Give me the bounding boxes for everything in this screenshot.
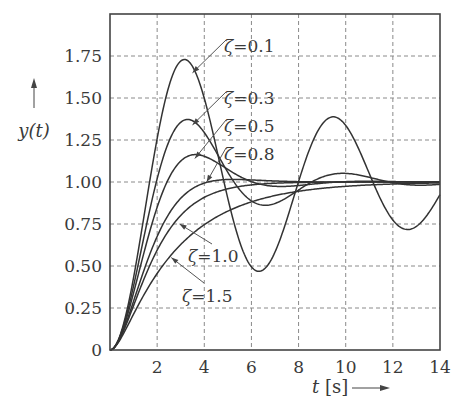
- step-response-chart: 246810121400.250.500.751.001.251.501.75 …: [0, 0, 460, 408]
- x-axis-arrow-head-icon: [380, 385, 390, 391]
- annotation-arrowhead-icon: [180, 224, 187, 230]
- x-tick-label: 12: [382, 357, 404, 377]
- y-tick-label: 1.25: [64, 130, 102, 150]
- y-tick-label: 1.00: [64, 172, 102, 192]
- y-tick-label: 1.75: [64, 46, 102, 66]
- curve-zeta-0-1: [110, 59, 440, 350]
- annotation-arrowhead-icon: [171, 258, 178, 264]
- annotation-label: ζ=0.1: [224, 36, 275, 56]
- x-axis-label-group: t [s]: [312, 376, 390, 397]
- x-tick-label: 2: [152, 357, 163, 377]
- annotation-label: ζ=0.3: [224, 88, 275, 108]
- y-axis-arrow-head-icon: [31, 78, 37, 88]
- curves: [110, 59, 440, 350]
- curve-zeta-0-3: [110, 119, 440, 350]
- annotation-label: ζ=0.8: [224, 144, 275, 164]
- x-tick-label: 8: [293, 357, 304, 377]
- y-tick-label: 0: [91, 340, 102, 360]
- y-axis-label-group: y(t): [17, 78, 49, 141]
- x-axis-label-unit: [s]: [325, 376, 348, 397]
- x-tick-label: 4: [199, 357, 210, 377]
- y-tick-label: 0.75: [64, 214, 102, 234]
- annotation-label: ζ=1.0: [188, 246, 239, 266]
- x-axis-label-var: t: [312, 376, 320, 397]
- y-tick-label: 1.50: [64, 88, 102, 108]
- x-tick-label: 14: [429, 357, 451, 377]
- y-tick-label: 0.50: [64, 256, 102, 276]
- x-tick-label: 10: [335, 357, 357, 377]
- curve-zeta-0-8: [110, 179, 440, 350]
- annotation-label: ζ=1.5: [182, 286, 233, 306]
- x-tick-label: 6: [246, 357, 257, 377]
- y-tick-label: 0.25: [64, 298, 102, 318]
- y-axis-label: y(t): [17, 120, 49, 141]
- annotation-label: ζ=0.5: [224, 116, 275, 136]
